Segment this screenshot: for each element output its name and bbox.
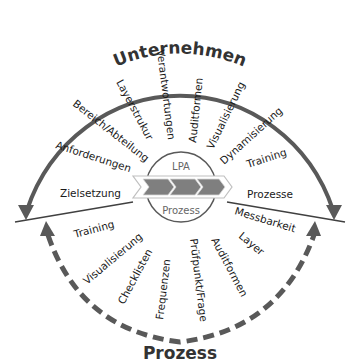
arrow-up-left-icon [40, 221, 55, 236]
lpa-diagram: Unternehmen LPA Prozess Zielsetzung Anfo… [0, 0, 360, 363]
label-auditformen-top: Auditformen [186, 77, 205, 143]
label-training-bottom: Training [71, 218, 115, 241]
svg-text:Unternehmen: Unternehmen [110, 37, 249, 70]
arrow-down-left-icon [18, 205, 34, 220]
process-arc [40, 221, 321, 342]
arrow-up-right-icon [306, 221, 321, 236]
label-training-top: Training [244, 146, 288, 171]
center-top-label: LPA [172, 161, 190, 172]
label-zielsetzung: Zielsetzung [60, 187, 121, 199]
center-bottom-label: Prozess [162, 205, 200, 216]
label-pruefpunkt-frage: Prüfpunkt/Frage [188, 238, 210, 323]
label-prozesse: Prozesse [247, 188, 293, 200]
bottom-title: Prozess [143, 343, 217, 363]
label-layer: Layer [237, 229, 268, 257]
top-title: Unternehmen [110, 37, 249, 70]
label-frequenzen: Frequenzen [153, 258, 172, 320]
center-hub: LPA Prozess [133, 152, 232, 222]
arrow-down-right-icon [326, 205, 342, 220]
